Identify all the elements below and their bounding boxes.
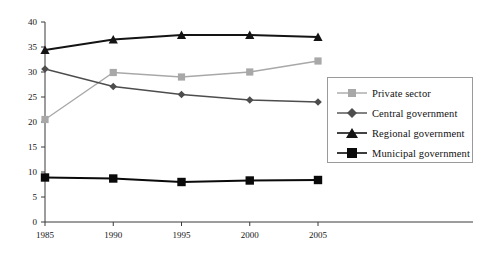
data-point-marker	[178, 91, 186, 99]
y-axis-tick-label: 30	[28, 67, 38, 77]
data-point-marker	[177, 178, 185, 186]
legend-label-municipal-government: Municipal government	[369, 148, 470, 159]
y-axis-tick-label: 5	[33, 192, 38, 202]
legend-item-central-government: Central government	[328, 103, 472, 123]
x-axis-tick-label: 1985	[36, 230, 55, 240]
y-axis-tick-label: 25	[28, 92, 38, 102]
data-point-marker	[110, 69, 117, 76]
data-point-marker	[109, 83, 117, 91]
y-axis-tick-label: 40	[28, 17, 38, 27]
x-axis-tick-label: 1990	[104, 230, 123, 240]
data-point-marker	[41, 173, 49, 181]
data-point-marker	[314, 98, 322, 106]
series-central-government	[41, 65, 322, 106]
data-point-marker	[314, 176, 322, 184]
legend-swatch-diamond-icon	[335, 106, 369, 120]
figure-caption	[0, 252, 481, 261]
legend-label-private-sector: Private sector	[369, 88, 431, 99]
y-axis-tick-label: 20	[28, 117, 38, 127]
legend-item-municipal-government: Municipal government	[328, 143, 472, 163]
legend-item-regional-government: Regional government	[328, 123, 472, 143]
x-axis-tick-label: 2005	[309, 230, 328, 240]
legend-label-regional-government: Regional government	[369, 128, 465, 139]
legend-label-central-government: Central government	[369, 108, 457, 119]
chart-container: 0510152025303540 19851990199520002005 Pr…	[0, 0, 481, 261]
data-point-marker	[246, 176, 254, 184]
y-axis-tick-label: 10	[28, 167, 38, 177]
series-layer	[40, 30, 322, 186]
x-axis-tick-label: 1995	[173, 230, 192, 240]
data-point-marker	[41, 116, 48, 123]
legend-swatch-square-black-icon	[335, 146, 369, 160]
x-axis: 19851990199520002005	[36, 222, 473, 240]
y-axis-tick-label: 35	[28, 42, 38, 52]
y-axis-tick-label: 15	[28, 142, 38, 152]
series-private-sector	[41, 57, 321, 123]
data-point-marker	[314, 57, 321, 64]
data-point-marker	[178, 73, 185, 80]
chart-legend: Private sector Central government Region…	[327, 77, 473, 163]
data-point-marker	[246, 68, 253, 75]
series-regional-government	[40, 30, 322, 54]
legend-swatch-triangle-icon	[335, 126, 369, 140]
data-point-marker	[246, 96, 254, 104]
x-axis-tick-label: 2000	[241, 230, 260, 240]
y-axis-tick-label: 0	[33, 217, 38, 227]
data-point-marker	[109, 174, 117, 182]
legend-swatch-square-gray-icon	[335, 86, 369, 100]
legend-item-private-sector: Private sector	[328, 83, 472, 103]
series-municipal-government	[41, 173, 322, 186]
